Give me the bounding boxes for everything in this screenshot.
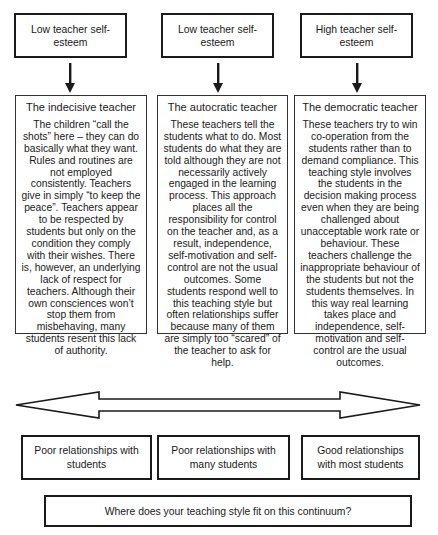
style-title: The autocratic teacher (168, 102, 277, 114)
continuum-double-arrow-icon (0, 380, 438, 430)
relationship-box-3: Good relationships with most students (301, 435, 420, 480)
continuum-question-box: Where does your teaching style fit on th… (44, 495, 412, 527)
indecisive-teacher-box: The indecisive teacher The children “cal… (15, 95, 147, 334)
self-esteem-label: Low teacher self-esteem (22, 23, 119, 49)
relationship-box-2: Poor relationships with many students (157, 435, 290, 480)
style-description: These teachers tell the students what to… (163, 119, 282, 369)
arrow-down-icon (212, 63, 224, 93)
democratic-teacher-box: The democratic teacher These teachers tr… (294, 95, 426, 334)
self-esteem-box-2: Low teacher self-esteem (161, 13, 274, 58)
style-description: The children “call the shots” here – the… (21, 119, 141, 357)
self-esteem-label: Low teacher self-esteem (169, 23, 266, 49)
self-esteem-label: High teacher self-esteem (308, 23, 405, 49)
style-title: The democratic teacher (302, 102, 418, 114)
self-esteem-box-3: High teacher self-esteem (300, 13, 413, 58)
style-title: The indecisive teacher (26, 102, 136, 114)
question-text: Where does your teaching style fit on th… (105, 506, 352, 517)
autocratic-teacher-box: The autocratic teacher These teachers te… (157, 95, 288, 334)
relationship-label: Good relationships with most students (309, 444, 412, 472)
arrow-down-icon (351, 63, 363, 93)
style-description: These teachers try to win co-operation f… (300, 119, 420, 369)
arrow-down-icon (64, 63, 76, 93)
self-esteem-box-1: Low teacher self-esteem (14, 13, 127, 58)
relationship-box-1: Poor relationships with students (21, 435, 152, 480)
relationship-label: Poor relationships with many students (165, 444, 282, 472)
relationship-label: Poor relationships with students (29, 444, 144, 472)
